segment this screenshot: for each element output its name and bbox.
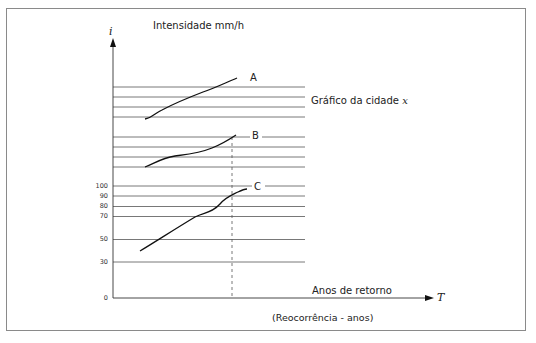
curve-a	[145, 78, 237, 119]
y-tick-90: 90	[88, 193, 108, 200]
city-label: Gráfico da cidade x	[311, 96, 408, 106]
city-variable: x	[402, 95, 408, 106]
curve-label-a: A	[250, 73, 257, 83]
x-axis-arrow-icon	[425, 295, 434, 301]
gridlines-a	[113, 87, 305, 117]
y-axis-arrow-icon	[110, 38, 116, 47]
x-axis-sublabel: (Reocorrência - anos)	[272, 313, 373, 323]
y-tick-100: 100	[88, 183, 108, 190]
y-tick-0: 0	[88, 295, 108, 302]
y-tick-70: 70	[88, 213, 108, 220]
x-axis-symbol: T	[437, 292, 444, 303]
x-axis-label: Anos de retorno	[312, 286, 392, 296]
y-tick-30: 30	[88, 259, 108, 266]
curve-label-c: C	[254, 182, 261, 192]
curve-b	[145, 135, 236, 167]
idf-diagram	[0, 0, 536, 343]
y-axis-symbol: i	[109, 26, 113, 37]
y-tick-80: 80	[88, 203, 108, 210]
curve-c	[140, 189, 247, 251]
y-tick-50: 50	[88, 236, 108, 243]
gridlines-b	[113, 137, 305, 167]
curve-label-b: B	[252, 131, 259, 141]
chart-title: Intensidade mm/h	[153, 21, 244, 31]
